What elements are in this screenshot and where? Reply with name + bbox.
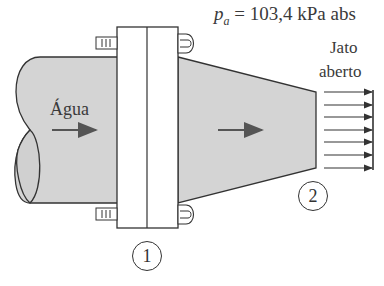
- bolt-bottom-left: [96, 208, 117, 220]
- bolt-head-top-right: [178, 34, 194, 53]
- jet-label-line1: Jato: [330, 38, 357, 58]
- section-1-marker: 1: [132, 241, 162, 271]
- fluid-label: Água: [50, 99, 89, 120]
- pipe-nozzle-diagram: [0, 0, 384, 286]
- flange: [117, 27, 178, 228]
- bolt-head-bottom-right: [178, 205, 194, 224]
- jet-label-line2: aberto: [319, 62, 361, 82]
- jet-arrows: [324, 90, 373, 170]
- bolt-top-left: [96, 37, 117, 49]
- section-2-marker: 2: [298, 181, 328, 211]
- ambient-pressure-label: pa = 103,4 kPa abs: [214, 3, 356, 29]
